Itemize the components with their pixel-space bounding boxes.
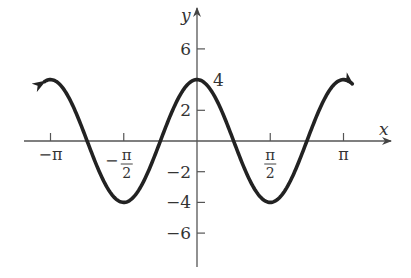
fraction-numerator: π [122, 146, 132, 164]
fraction-denominator: 2 [122, 165, 131, 181]
y-tick-label: 2 [180, 100, 191, 120]
cosine-graph: −π−π2π2π 62−2−4−6 x y 4 [0, 0, 411, 278]
y-tick-label: −2 [166, 162, 191, 182]
y-tick-label: −6 [166, 223, 191, 243]
x-tick-label: −π [39, 145, 63, 164]
fraction-denominator: 2 [266, 165, 275, 181]
x-tick-label: π [338, 145, 349, 164]
y-axis-label: y [180, 5, 191, 25]
x-tick-label: π [265, 146, 275, 164]
y-tick-label: 6 [180, 39, 191, 59]
x-axis-label: x [379, 119, 389, 139]
minus-sign: − [105, 151, 118, 170]
y-tick-label: −4 [166, 192, 191, 212]
peak-label: 4 [213, 70, 224, 90]
